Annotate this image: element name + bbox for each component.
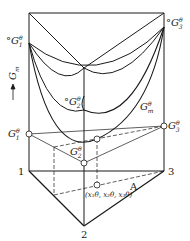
label-Gm: Gθm (140, 100, 154, 114)
label-pure-G3: °Gθ3 (166, 16, 183, 30)
label-vertex-3: 3 (168, 166, 174, 177)
point-G1 (26, 131, 32, 137)
label-composition: (x₁θ, x₂θ, x₃θ) (85, 191, 133, 199)
label-vertex-2: 2 (81, 229, 87, 240)
label-G2: Gθ2 (70, 145, 82, 159)
label-G1: Gθ1 (8, 127, 20, 141)
tangent-plane-2-3 (84, 126, 164, 163)
up-arrow-icon (11, 84, 15, 100)
ternary-gibbs-prism-diagram: °Gθ1 °Gθ3 °Gθ2 Gθm Gθ1 Gθ3 Gθ2 1 3 2 A (… (0, 0, 190, 241)
point-composition (94, 182, 100, 188)
label-pure-G1: °Gθ1 (6, 34, 23, 48)
base-edge-1-2 (29, 171, 84, 226)
point-G3 (161, 123, 167, 129)
point-tangent (94, 136, 100, 142)
label-G3: Gθ3 (168, 119, 180, 133)
axis-label-Gm: Gm (7, 66, 20, 80)
label-vertex-1: 1 (18, 166, 24, 177)
label-pure-G2: °Gθ2 (64, 95, 81, 109)
point-G2 (81, 160, 87, 166)
svg-text:Gm: Gm (7, 66, 20, 80)
binary-curve-2-3 (84, 27, 164, 74)
